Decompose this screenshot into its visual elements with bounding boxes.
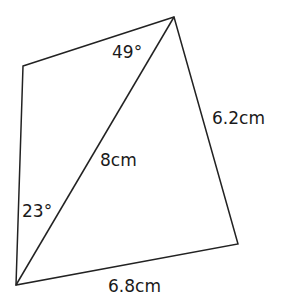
diagonal-length-label: 8cm bbox=[100, 152, 137, 169]
diagonal-line bbox=[16, 17, 174, 285]
quadrilateral-figure bbox=[0, 0, 286, 297]
right-side-length-label: 6.2cm bbox=[212, 110, 265, 127]
angle-top-label: 49° bbox=[112, 44, 142, 61]
angle-bottom-label: 23° bbox=[22, 203, 52, 220]
bottom-side-length-label: 6.8cm bbox=[108, 278, 161, 295]
